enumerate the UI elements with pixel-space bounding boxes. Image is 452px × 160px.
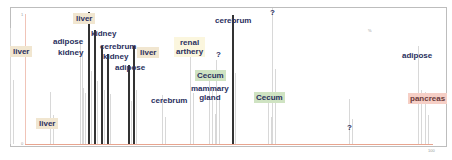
peak-label: liver	[10, 46, 32, 57]
peak-label: renal arthery	[174, 37, 205, 57]
peak-line-minor	[215, 114, 216, 144]
peak-chart: 1 0 100 % liveradiposekidneyliverkidneyc…	[0, 0, 452, 160]
x-right-tick: 100	[428, 148, 435, 153]
peak-label: liver	[137, 47, 159, 58]
peak-label: kidney	[103, 52, 128, 61]
peak-line-minor	[352, 119, 353, 144]
peak-label: liver	[36, 118, 58, 129]
baseline	[25, 144, 433, 145]
peak-line-minor	[271, 117, 272, 144]
peak-line-minor	[97, 81, 98, 144]
top-right-note: %	[368, 28, 372, 33]
peak-line-minor	[136, 90, 137, 144]
peak-line-minor	[83, 88, 84, 144]
peak-label: cerebrum	[100, 42, 136, 51]
peak-label: cerebrum	[151, 96, 187, 105]
peak-line	[80, 42, 81, 144]
y-bottom-tick: 0	[21, 141, 23, 146]
peak-line	[349, 99, 350, 144]
peak-line	[133, 46, 135, 144]
peak-line-minor	[131, 101, 132, 144]
plot-frame	[10, 7, 447, 147]
peak-line	[272, 8, 273, 144]
peak-line-minor	[104, 90, 105, 144]
peak-line	[82, 52, 83, 144]
peak-line-minor	[428, 115, 429, 144]
peak-line-minor	[219, 98, 220, 144]
peak-line-minor	[91, 71, 92, 144]
peak-line	[107, 54, 109, 144]
peak-label: kidney	[58, 48, 83, 57]
peak-label: adipose	[402, 51, 432, 60]
peak-line	[88, 12, 90, 144]
peak-label: liver	[73, 13, 95, 24]
peak-label: pancreas	[408, 93, 447, 104]
peak-line-minor	[85, 93, 86, 144]
peak-label: kidney	[91, 29, 116, 38]
peak-label: Cecum	[254, 92, 285, 103]
peak-label: ?	[216, 50, 221, 59]
peak-line	[232, 15, 234, 144]
peak-label: ?	[270, 8, 275, 17]
peak-line-minor	[110, 94, 111, 144]
peak-line-minor	[235, 73, 236, 144]
peak-label: mammary gland	[191, 84, 229, 102]
peak-label: ?	[347, 123, 352, 132]
peak-label: cerebrum	[215, 16, 251, 25]
peak-label: Cecum	[195, 70, 226, 81]
y-top-tick: 1	[21, 12, 23, 17]
y-axis	[25, 14, 26, 145]
peak-line-minor	[165, 117, 166, 144]
peak-line	[128, 65, 130, 144]
peak-line	[94, 30, 96, 144]
peak-label: adipose	[53, 37, 83, 46]
peak-label: adipose	[115, 63, 145, 72]
peak-line-minor	[13, 80, 14, 144]
peak-line-minor	[275, 69, 276, 144]
